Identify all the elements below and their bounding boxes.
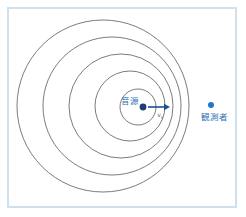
- wavefront-circles-group: [17, 20, 189, 192]
- doppler-effect-figure: 音源 観測者 vs: [0, 0, 246, 217]
- wavefront-circle-3: [69, 54, 173, 158]
- wavefront-circle-4: [95, 71, 165, 141]
- source-velocity-arrow: [148, 104, 170, 110]
- sound-source-label: 音源: [121, 96, 139, 106]
- velocity-arrow-head: [164, 104, 170, 110]
- observer-label: 観測者: [201, 112, 228, 122]
- diagram-canvas: 音源 観測者 vs: [0, 0, 246, 217]
- velocity-symbol-label: vs: [157, 111, 163, 120]
- velocity-symbol-subscript: s: [161, 115, 163, 120]
- wavefront-circle-2: [43, 37, 181, 175]
- observer-dot: [208, 102, 214, 108]
- sound-source-dot: [140, 104, 147, 111]
